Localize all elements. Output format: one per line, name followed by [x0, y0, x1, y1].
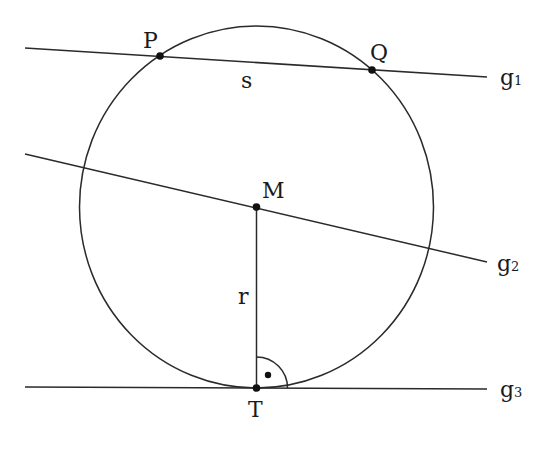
label-g1: g1 [500, 65, 522, 90]
line-g1-secant [25, 48, 487, 77]
label-P: P [143, 28, 158, 53]
label-chord-s: s [241, 68, 252, 93]
point-M [253, 203, 261, 211]
geometry-diagram: P Q M T s r g1 g2 g3 [0, 0, 543, 449]
point-P [156, 52, 164, 60]
label-g3: g3 [500, 377, 522, 402]
label-g2-subscript: 2 [511, 259, 519, 274]
point-T [253, 384, 261, 392]
right-angle-dot-icon [265, 372, 271, 378]
label-g2-main: g [497, 251, 511, 276]
right-angle-arc-icon [257, 357, 288, 388]
label-g1-subscript: 1 [514, 73, 522, 88]
label-g1-main: g [500, 65, 514, 90]
point-Q [368, 66, 376, 74]
label-g3-subscript: 3 [514, 385, 522, 400]
label-Q: Q [370, 40, 388, 65]
label-g3-main: g [500, 377, 514, 402]
label-T: T [248, 397, 263, 422]
label-g2: g2 [497, 251, 519, 276]
label-M: M [262, 178, 285, 203]
label-radius-r: r [238, 284, 249, 309]
